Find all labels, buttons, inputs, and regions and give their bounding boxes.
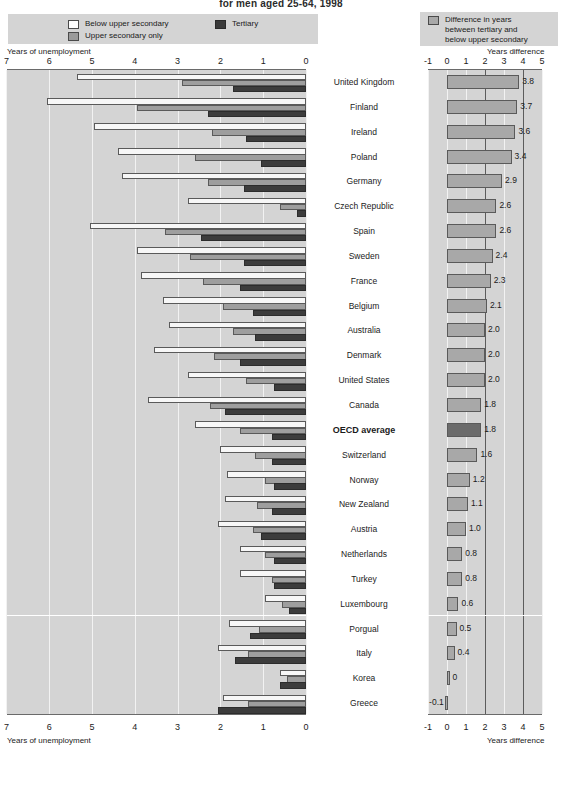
axis-tick-5: 5 (535, 56, 549, 66)
difference-plot-area (428, 69, 542, 715)
bar-dark (272, 434, 306, 441)
difference-value-label: 1.8 (484, 424, 496, 434)
difference-value-label: 2.0 (488, 374, 500, 384)
bar-dark (274, 384, 306, 391)
country-label: United Kingdom (316, 77, 412, 87)
bar-difference (447, 646, 455, 660)
axis-tick-2: 2 (213, 56, 227, 66)
bar-dark (272, 459, 306, 466)
bar-dark (218, 707, 306, 714)
country-label: Korea (316, 673, 412, 683)
axis-tick-7: 7 (0, 722, 13, 732)
difference-value-label: 2.6 (499, 200, 511, 210)
bar-dark (244, 185, 306, 192)
gridline-left-5 (92, 70, 93, 714)
bar-difference (447, 323, 485, 337)
diff-swatch-icon (428, 16, 439, 25)
country-label: Austria (316, 524, 412, 534)
bar-difference (447, 373, 485, 387)
gridline-right-4 (523, 70, 524, 714)
chart-figure: for men aged 25-64, 1998 Below upper sec… (0, 0, 562, 792)
bar-dark (274, 558, 306, 565)
country-label: Finland (316, 102, 412, 112)
legend-label-tertiary: Tertiary (232, 19, 258, 28)
gridline-left-6 (49, 70, 50, 714)
bar-difference (447, 224, 496, 238)
country-label: Czech Republic (316, 201, 412, 211)
axis-tick-6: 6 (42, 56, 56, 66)
axis-tick-5: 5 (535, 722, 549, 732)
divider-line-right (428, 615, 542, 616)
axis-tick-7: 7 (0, 56, 13, 66)
bar-difference (447, 423, 481, 437)
dark-swatch-icon (215, 20, 226, 29)
difference-value-label: 1.1 (471, 498, 483, 508)
difference-value-label: 2.0 (488, 324, 500, 334)
axis-tick-neg1: -1 (421, 722, 435, 732)
axis-tick-2: 2 (213, 722, 227, 732)
legend-left: Below upper secondary Upper secondary on… (8, 14, 318, 44)
bar-difference (447, 622, 457, 636)
bar-dark (201, 235, 306, 242)
bar-dark (208, 111, 306, 118)
country-label: Switzerland (316, 450, 412, 460)
country-label: Turkey (316, 574, 412, 584)
axis-tick-1: 1 (459, 56, 473, 66)
bar-dark (261, 533, 306, 540)
difference-value-label: 0.4 (458, 647, 470, 657)
country-label: Norway (316, 475, 412, 485)
country-label: Belgium (316, 301, 412, 311)
axis-tick-2: 2 (478, 56, 492, 66)
bar-dark (253, 310, 307, 317)
axis-tick-4: 4 (128, 722, 142, 732)
gridline-right-5 (542, 70, 543, 714)
bar-dark (240, 359, 306, 366)
bar-difference (447, 249, 493, 263)
bar-difference (447, 597, 458, 611)
difference-value-label: 2.0 (488, 349, 500, 359)
left-axis-caption-bottom: Years of unemployment (7, 736, 91, 745)
difference-value-label: 3.6 (518, 126, 530, 136)
bar-difference (447, 174, 502, 188)
difference-value-label: 1.2 (473, 474, 485, 484)
unemployment-plot-area (7, 69, 306, 715)
divider-line-left (7, 615, 306, 616)
bar-difference (447, 398, 481, 412)
bar-difference (447, 125, 515, 139)
country-label: Porgual (316, 624, 412, 634)
bar-dark (244, 260, 306, 267)
country-label: Greece (316, 698, 412, 708)
bar-dark (235, 657, 306, 664)
legend-label-upper-secondary-only: Upper secondary only (85, 31, 163, 40)
axis-tick-4: 4 (128, 56, 142, 66)
country-label: Denmark (316, 350, 412, 360)
bar-difference (447, 274, 491, 288)
gridline-left-0 (306, 70, 307, 714)
bar-difference (447, 547, 462, 561)
bar-difference (445, 696, 448, 710)
bar-difference (447, 473, 470, 487)
country-label: Poland (316, 152, 412, 162)
bar-dark (280, 682, 306, 689)
difference-value-label: 0.6 (461, 598, 473, 608)
country-label: Canada (316, 400, 412, 410)
bar-dark (289, 608, 306, 615)
difference-value-label: 0.8 (465, 548, 477, 558)
bar-difference (447, 671, 450, 685)
gridline-left-3 (178, 70, 179, 714)
legend-diff-line-3: below upper secondary (445, 35, 528, 44)
legend-right: Difference in years between tertiary and… (420, 12, 558, 46)
difference-value-label: 2.9 (505, 175, 517, 185)
axis-tick-2: 2 (478, 722, 492, 732)
country-label: Netherlands (316, 549, 412, 559)
country-label: United States (316, 375, 412, 385)
legend-diff-line-1: Difference in years (445, 15, 512, 24)
difference-value-label: 0 (453, 672, 458, 682)
bar-difference (447, 348, 485, 362)
difference-value-label: 3.8 (522, 76, 534, 86)
left-axis-caption-top: Years of unemployment (7, 47, 91, 56)
country-label: Ireland (316, 127, 412, 137)
difference-value-label: 2.6 (499, 225, 511, 235)
axis-tick-1: 1 (256, 56, 270, 66)
bar-difference (447, 522, 466, 536)
